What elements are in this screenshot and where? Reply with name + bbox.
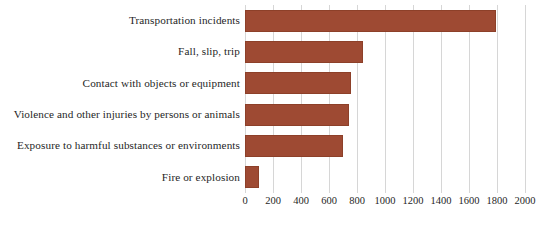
- bar-transportation-incidents: [245, 10, 496, 32]
- x-tick-label: 1200: [403, 195, 424, 207]
- category-label: Violence and other injuries by persons o…: [0, 108, 243, 121]
- x-tick-label: 1400: [431, 195, 452, 207]
- bar-series: [245, 5, 525, 193]
- x-tick-label: 0: [242, 195, 247, 207]
- bar-row: [245, 135, 525, 157]
- category-label: Fire or explosion: [0, 171, 243, 184]
- x-tick-label: 2000: [515, 195, 536, 207]
- x-axis-tick-labels: 0200400600800100012001400160018002000: [245, 193, 525, 213]
- category-label: Fall, slip, trip: [0, 45, 243, 58]
- bar-row: [245, 72, 525, 94]
- category-label: Contact with objects or equipment: [0, 77, 243, 90]
- x-tick-label: 200: [265, 195, 281, 207]
- x-tick-label: 600: [321, 195, 337, 207]
- category-label: Transportation incidents: [0, 14, 243, 27]
- plot-area: [245, 5, 525, 193]
- bar-row: [245, 41, 525, 63]
- bar-violence-and-other-injuries: [245, 104, 349, 126]
- x-tick-label: 1600: [459, 195, 480, 207]
- category-axis-labels: Transportation incidents Fall, slip, tri…: [0, 5, 243, 193]
- x-tick-label: 1000: [375, 195, 396, 207]
- bar-contact-with-objects: [245, 72, 351, 94]
- bar-row: [245, 166, 525, 188]
- bar-row: [245, 10, 525, 32]
- x-tick-label: 1800: [487, 195, 508, 207]
- gridline: [525, 5, 526, 193]
- bar-chart: Transportation incidents Fall, slip, tri…: [0, 0, 545, 225]
- x-tick-label: 800: [349, 195, 365, 207]
- bar-exposure-to-harmful-substances: [245, 135, 343, 157]
- bar-fall-slip-trip: [245, 41, 363, 63]
- bar-row: [245, 104, 525, 126]
- x-tick-label: 400: [293, 195, 309, 207]
- category-label: Exposure to harmful substances or enviro…: [0, 139, 243, 152]
- bar-fire-or-explosion: [245, 166, 259, 188]
